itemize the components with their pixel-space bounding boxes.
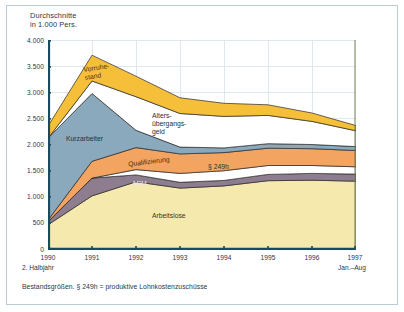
- x-tick-1997: 1997: [335, 254, 375, 261]
- chart-page: Durchschnittein 1.000 Pers. 4.000 3.500 …: [0, 0, 404, 312]
- chart-footnote: Bestandsgrößen. § 249h = produktive Lohn…: [22, 283, 207, 290]
- x-tick-1992: 1992: [116, 254, 156, 261]
- x-tick-1991: 1991: [72, 254, 112, 261]
- x-axis-note-right: Jan.–Aug: [338, 264, 366, 271]
- x-axis-note-left: 2. Halbjahr: [22, 264, 54, 271]
- x-tick-1990: 1990: [28, 254, 68, 261]
- x-tick-1993: 1993: [160, 254, 200, 261]
- x-tick-1995: 1995: [248, 254, 288, 261]
- x-tick-1994: 1994: [204, 254, 244, 261]
- x-tick-1996: 1996: [292, 254, 332, 261]
